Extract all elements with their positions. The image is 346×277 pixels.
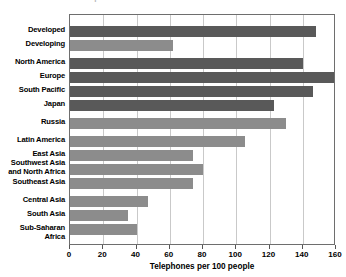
axis-tick-label: 120	[262, 250, 275, 259]
axis-tick	[302, 245, 303, 249]
gridline	[270, 15, 271, 244]
category-label: North America	[15, 58, 65, 66]
axis-tick	[269, 245, 270, 249]
axis-tick	[102, 245, 103, 249]
value-axis: 020406080100120140160	[69, 245, 335, 261]
category-label: Sub-Saharan Africa	[0, 224, 65, 241]
axis-tick	[235, 245, 236, 249]
category-label: Europe	[40, 72, 65, 80]
axis-tick-label: 140	[295, 250, 308, 259]
bar	[70, 150, 193, 161]
axis-tick-label: 60	[164, 250, 173, 259]
bar	[70, 58, 303, 69]
bar	[70, 26, 316, 37]
category-label: Southwest Asia and North Africa	[8, 159, 65, 176]
bar	[70, 100, 274, 111]
telephones-per-100-people-bar-chart: DevelopedDevelopingNorth AmericaEuropeSo…	[0, 0, 346, 277]
axis-tick-label: 0	[67, 250, 71, 259]
axis-tick	[202, 245, 203, 249]
axis-tick	[69, 245, 70, 249]
bar	[70, 40, 173, 51]
category-label: Latin America	[17, 136, 65, 144]
category-label: Central Asia	[23, 196, 65, 204]
bar	[70, 224, 137, 235]
category-label: Developing	[26, 40, 65, 48]
bar	[70, 136, 245, 147]
axis-tick	[169, 245, 170, 249]
axis-tick	[136, 245, 137, 249]
bar	[70, 86, 313, 97]
bar	[70, 72, 335, 83]
axis-tick-label: 160	[328, 250, 341, 259]
category-label: Developed	[28, 26, 65, 34]
category-label: Russia	[41, 118, 65, 126]
bar	[70, 210, 128, 221]
bar	[70, 118, 286, 129]
category-axis-labels: DevelopedDevelopingNorth AmericaEuropeSo…	[0, 14, 67, 245]
gridline	[303, 15, 304, 244]
category-label: South Pacific	[19, 86, 65, 94]
axis-tick-label: 40	[131, 250, 140, 259]
axis-tick-label: 80	[198, 250, 207, 259]
category-label: Japan	[44, 100, 65, 108]
plot-area	[69, 14, 335, 245]
gridline	[203, 15, 204, 244]
gridline	[236, 15, 237, 244]
axis-title: Telephones per 100 people	[69, 262, 335, 271]
bar	[70, 164, 203, 175]
axis-tick-label: 100	[229, 250, 242, 259]
bar	[70, 178, 193, 189]
category-label: Southeast Asia	[13, 178, 65, 186]
axis-tick	[335, 245, 336, 249]
category-label: South Asia	[27, 210, 65, 218]
bar	[70, 196, 148, 207]
axis-tick-label: 20	[98, 250, 107, 259]
